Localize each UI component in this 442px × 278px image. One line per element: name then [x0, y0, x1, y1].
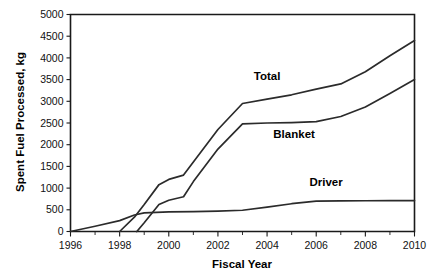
y-axis-tick-labels: 0500100015002000250030003500400045005000 [40, 8, 64, 237]
series-label-total: Total [254, 70, 281, 82]
axis-frame [71, 15, 415, 232]
y-tick-label: 3500 [40, 73, 64, 85]
y-tick-label: 1000 [40, 182, 64, 194]
y-tick-label: 2500 [40, 117, 64, 129]
x-tick-label: 1998 [108, 239, 132, 251]
y-tick-label: 2000 [40, 138, 64, 150]
y-tick-label: 3000 [40, 95, 64, 107]
x-tick-label: 2010 [403, 239, 427, 251]
chart-figure: 0500100015002000250030003500400045005000… [0, 0, 442, 278]
y-tick-label: 4000 [40, 52, 64, 64]
y-tick-label: 4500 [40, 30, 64, 42]
series-line-blanket [137, 80, 415, 232]
x-tick-label: 2002 [206, 239, 230, 251]
series-label-driver: Driver [309, 176, 343, 188]
y-tick-label: 1500 [40, 160, 64, 172]
data-series-group [71, 41, 415, 232]
series-inline-labels: TotalBlanketDriver [254, 70, 343, 187]
y-tick-label: 5000 [40, 8, 64, 20]
y-tick-label: 500 [46, 203, 64, 215]
x-tick-label: 2008 [354, 239, 378, 251]
x-tick-label: 2000 [157, 239, 181, 251]
series-line-driver [71, 201, 415, 232]
series-label-blanket: Blanket [273, 128, 315, 140]
plot-frame [71, 15, 415, 232]
line-chart: 0500100015002000250030003500400045005000… [0, 0, 442, 278]
y-axis-title: Spent Fuel Processed, kg [14, 52, 26, 192]
x-axis-tick-labels: 19961998200020022004200620082010 [59, 239, 427, 251]
x-tick-label: 2006 [305, 239, 329, 251]
x-tick-label: 1996 [59, 239, 83, 251]
x-axis-title: Fiscal Year [212, 258, 272, 270]
y-tick-label: 0 [58, 225, 64, 237]
x-tick-label: 2004 [255, 239, 279, 251]
